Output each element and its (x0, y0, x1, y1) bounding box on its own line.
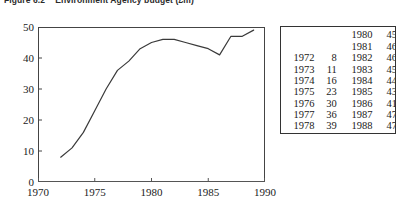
plot-area (38, 27, 265, 182)
table-cell-year-b: 1987 (337, 110, 373, 121)
table-cell-val-b: 43 (372, 87, 396, 98)
x-axis-tick-labels: 19701975198019851990 (0, 186, 300, 202)
table-cell-year-b: 1989 (337, 132, 373, 134)
axis-frame (38, 27, 265, 182)
table-cell-val-b: 49 (372, 132, 396, 134)
line-chart-svg (38, 27, 265, 182)
table-cell-year-a: 1974 (281, 76, 314, 87)
table-cell-val-b: 41 (372, 98, 396, 109)
table-cell-val-b: 44 (372, 76, 396, 87)
table-cell-year-a: 1973 (281, 64, 314, 75)
table-row: 19728198246 (281, 53, 396, 64)
table-cell-year-a: 1972 (281, 53, 314, 64)
table-cell-val-a: 23 (314, 87, 336, 98)
table-row: 198146 (281, 41, 396, 52)
table-row: 197943198949 (281, 132, 396, 134)
y-tick-label: 10 (8, 146, 34, 157)
table-cell-val-b: 45 (372, 30, 396, 41)
table-cell-year-a (281, 30, 314, 41)
table-cell-val-b: 45 (372, 64, 396, 75)
x-tick-label: 1975 (75, 186, 115, 198)
table-row: 197630198641 (281, 98, 396, 109)
figure-title: Environment Agency budget (£m) (55, 0, 194, 5)
table-row: 197523198543 (281, 87, 396, 98)
table-cell-val-a (314, 30, 336, 41)
table-cell-year-b: 1986 (337, 98, 373, 109)
table-cell-val-b: 46 (372, 41, 396, 52)
x-tick-label: 1990 (245, 186, 285, 198)
table-cell-val-a: 36 (314, 110, 336, 121)
table-row: 197311198345 (281, 64, 396, 75)
table-row: 197416198444 (281, 76, 396, 87)
table-row: 198045 (281, 30, 396, 41)
table-cell-year-b: 1984 (337, 76, 373, 87)
table-cell-val-a: 16 (314, 76, 336, 87)
table-cell-year-a: 1979 (281, 132, 314, 134)
table-cell-val-a: 43 (314, 132, 336, 134)
table-cell-val-a (314, 41, 336, 52)
table-cell-val-a: 11 (314, 64, 336, 75)
table-cell-year-b: 1983 (337, 64, 373, 75)
table-cell-year-b: 1985 (337, 87, 373, 98)
y-tick-label: 20 (8, 115, 34, 126)
table-cell-year-b: 1988 (337, 121, 373, 132)
table-row: 197736198747 (281, 110, 396, 121)
data-table: 1980451981461972819824619731119834519741… (281, 30, 396, 134)
data-series-line (61, 30, 254, 157)
table-cell-year-b: 1982 (337, 53, 373, 64)
y-tick-label: 50 (8, 22, 34, 33)
table-cell-year-b: 1980 (337, 30, 373, 41)
table-cell-val-a: 30 (314, 98, 336, 109)
table-cell-year-a: 1978 (281, 121, 314, 132)
table-row: 197839198847 (281, 121, 396, 132)
data-table-panel: 1980451981461972819824619731119834519741… (280, 26, 396, 134)
table-cell-year-b: 1981 (337, 41, 373, 52)
table-cell-val-a: 8 (314, 53, 336, 64)
x-tick-label: 1980 (132, 186, 172, 198)
table-cell-val-b: 47 (372, 110, 396, 121)
figure-caption: Figure 6.2Environment Agency budget (£m) (4, 0, 304, 7)
x-tick-label: 1985 (188, 186, 228, 198)
table-cell-year-a: 1976 (281, 98, 314, 109)
figure-root: Figure 6.2Environment Agency budget (£m)… (0, 0, 403, 218)
x-tick-label: 1970 (18, 186, 58, 198)
table-cell-val-b: 46 (372, 53, 396, 64)
table-cell-year-a: 1975 (281, 87, 314, 98)
y-tick-label: 30 (8, 84, 34, 95)
table-cell-year-a: 1977 (281, 110, 314, 121)
table-cell-year-a (281, 41, 314, 52)
table-cell-val-a: 39 (314, 121, 336, 132)
y-tick-label: 40 (8, 53, 34, 64)
table-cell-val-b: 47 (372, 121, 396, 132)
